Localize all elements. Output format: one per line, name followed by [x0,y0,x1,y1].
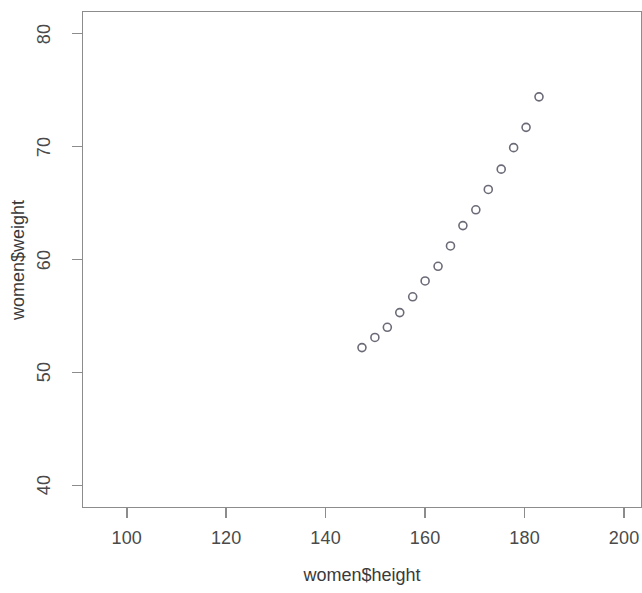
x-tick-label: 100 [111,528,142,549]
y-axis-title: women$weight [8,200,29,320]
x-tick-label: 180 [509,528,540,549]
x-tick [424,508,426,518]
y-tick [72,33,82,35]
x-tick [623,508,625,518]
x-tick [126,508,128,518]
y-tick [72,146,82,148]
x-axis-title: women$height [303,565,420,586]
y-tick-label: 50 [34,362,55,382]
x-tick [225,508,227,518]
y-tick [72,259,82,261]
y-tick-label: 40 [34,475,55,495]
x-tick-label: 140 [310,528,341,549]
y-tick [72,485,82,487]
y-tick-label: 80 [34,23,55,43]
y-tick-label: 70 [34,136,55,156]
plot-frame [82,11,642,508]
x-tick [325,508,327,518]
x-tick-label: 120 [211,528,242,549]
x-tick-label: 200 [609,528,640,549]
y-tick-label: 60 [34,249,55,269]
y-tick [72,372,82,374]
x-tick-label: 160 [410,528,441,549]
x-tick [524,508,526,518]
